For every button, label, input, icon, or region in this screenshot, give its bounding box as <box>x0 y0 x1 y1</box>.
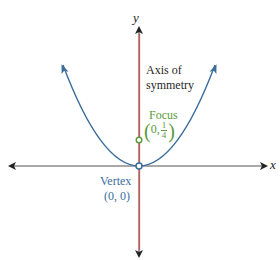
focus-x-value: 0, <box>151 122 160 136</box>
vertex-coordinates: (0, 0) <box>104 189 130 203</box>
parabola-left-arrow-icon <box>58 63 68 75</box>
focus-y-fraction: 14 <box>161 121 168 140</box>
axis-of-symmetry-label-line2: symmetry <box>146 78 194 92</box>
x-axis-label: x <box>270 158 276 172</box>
focus-open-paren: ( <box>144 120 151 142</box>
parabola-right-arrow-icon <box>209 63 219 75</box>
vertex-point <box>136 163 142 169</box>
axis-of-symmetry-label-line1: Axis of <box>146 63 182 77</box>
fraction-denominator: 4 <box>161 131 168 140</box>
parabola-diagram: y x Axis of symmetry Focus (0,14) Vertex… <box>0 0 280 260</box>
focus-close-paren: ) <box>168 120 175 142</box>
vertex-label: Vertex <box>100 174 131 188</box>
focus-point <box>136 137 142 143</box>
y-axis-label: y <box>133 11 139 25</box>
focus-coordinates: (0,14) <box>144 121 175 140</box>
diagram-canvas <box>0 0 280 260</box>
